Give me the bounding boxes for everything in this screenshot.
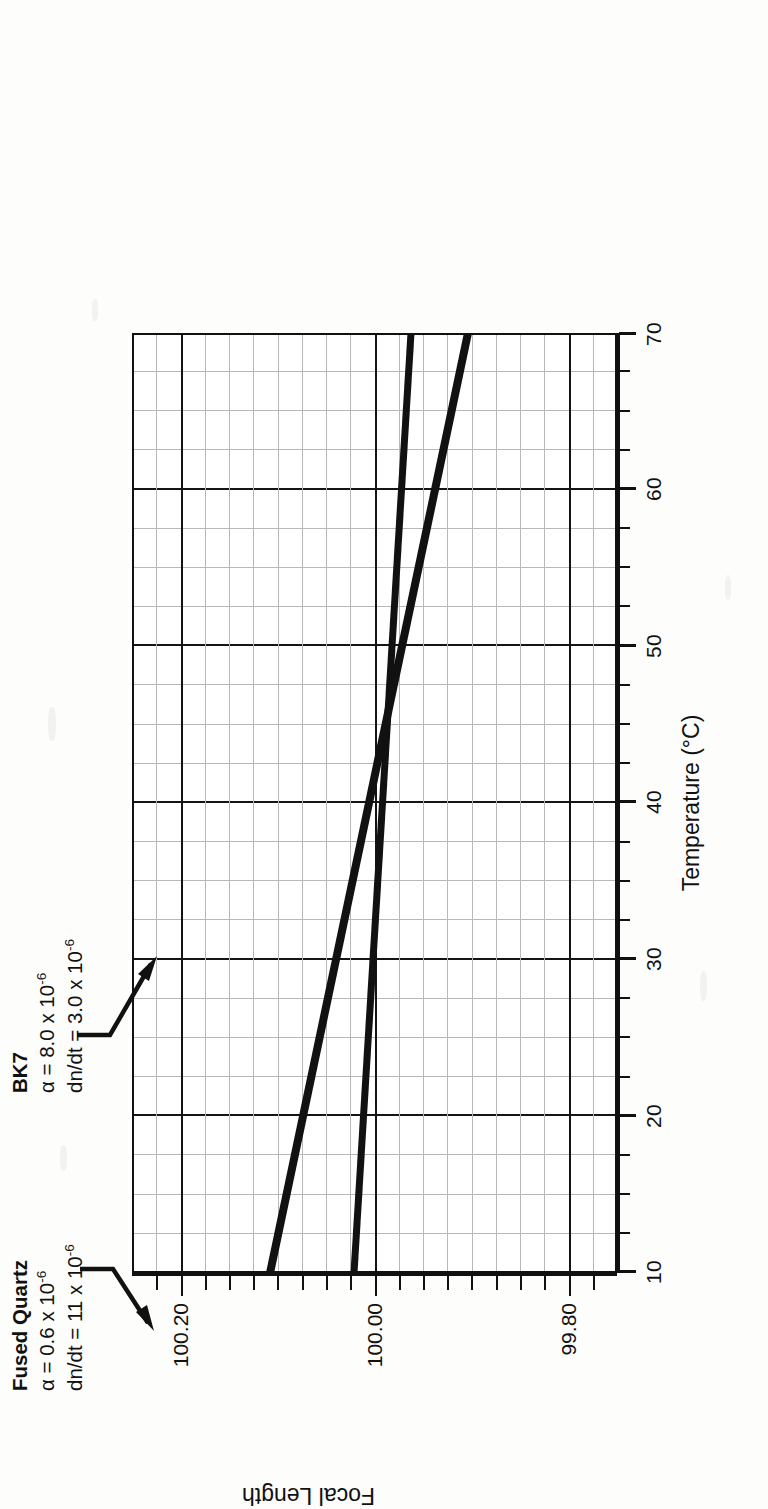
x-tick-minor xyxy=(619,1193,630,1195)
annotation-fused-quartz-alpha: α = 0.6 x 10-6 xyxy=(33,1244,60,1391)
leader-line-fused-quartz xyxy=(80,1269,148,1323)
x-axis-label-10: 10 xyxy=(642,1260,666,1284)
y-tick-minor xyxy=(471,1276,473,1290)
x-tick-minor xyxy=(619,449,630,451)
x-tick-20 xyxy=(619,1114,636,1117)
scan-speckle xyxy=(725,575,731,601)
y-tick-minor xyxy=(423,1276,425,1290)
x-tick-minor xyxy=(619,841,630,843)
plot-area xyxy=(132,333,617,1273)
y-tick-minor xyxy=(326,1276,328,1290)
y-tick-minor xyxy=(399,1276,401,1290)
x-tick-minor xyxy=(619,684,630,686)
y-axis-label-99.80: 99.80 xyxy=(557,1303,581,1356)
scan-speckle xyxy=(48,707,56,741)
y-axis-label-100.20: 100.20 xyxy=(169,1303,193,1367)
annotation-bk7-alpha: α = 8.0 x 10-6 xyxy=(33,939,60,1093)
annotation-bk7-name: BK7 xyxy=(6,939,33,1093)
x-tick-minor xyxy=(619,880,630,882)
x-axis-line xyxy=(617,333,620,1273)
y-axis-label-100.00: 100.00 xyxy=(363,1303,387,1367)
x-axis-label-40: 40 xyxy=(642,790,666,814)
annotation-fused-quartz-name: Fused Quartz xyxy=(6,1244,33,1391)
x-tick-minor xyxy=(619,1232,630,1234)
y-tick-minor xyxy=(496,1276,498,1290)
annotation-bk7-dndt: dn/dt = 3.0 x 10-6 xyxy=(61,939,88,1093)
x-tick-50 xyxy=(619,644,636,647)
x-tick-10 xyxy=(619,1270,636,1273)
x-tick-minor xyxy=(619,566,630,568)
annotation-fused-quartz-dndt: dn/dt = 11 x 10-6 xyxy=(61,1244,88,1391)
y-tick-minor xyxy=(350,1276,352,1290)
x-tick-30 xyxy=(619,957,636,960)
x-tick-60 xyxy=(619,487,636,490)
scan-speckle xyxy=(60,1145,67,1171)
x-tick-minor xyxy=(619,723,630,725)
x-tick-40 xyxy=(619,800,636,803)
series-line-fused-quartz xyxy=(270,333,468,1273)
y-tick-minor xyxy=(205,1276,207,1290)
leader-arrow-fused-quartz xyxy=(136,1305,154,1331)
x-tick-minor xyxy=(619,370,630,372)
x-tick-minor xyxy=(619,1076,630,1078)
y-tick-99.80 xyxy=(569,1276,572,1296)
x-tick-minor xyxy=(619,997,630,999)
x-axis-label-50: 50 xyxy=(642,634,666,658)
y-tick-minor xyxy=(520,1276,522,1290)
x-tick-minor xyxy=(619,919,630,921)
y-tick-minor xyxy=(544,1276,546,1290)
x-axis-label-60: 60 xyxy=(642,477,666,501)
x-axis-label-70: 70 xyxy=(642,322,666,346)
x-tick-minor xyxy=(619,605,630,607)
annotation-fused-quartz: Fused Quartz α = 0.6 x 10-6 dn/dt = 11 x… xyxy=(6,1244,88,1391)
y-tick-minor xyxy=(229,1276,231,1290)
series-line-bk7 xyxy=(354,333,411,1273)
scan-speckle xyxy=(92,299,98,321)
y-tick-minor xyxy=(277,1276,279,1290)
y-tick-100.20 xyxy=(181,1276,184,1296)
x-axis-label-20: 20 xyxy=(642,1104,666,1128)
y-tick-minor xyxy=(156,1276,158,1290)
x-tick-minor xyxy=(619,410,630,412)
x-axis-title: Temperature (°C) xyxy=(678,333,705,1273)
x-tick-minor xyxy=(619,527,630,529)
series-layer xyxy=(132,333,617,1273)
y-tick-minor xyxy=(447,1276,449,1290)
x-tick-minor xyxy=(619,1154,630,1156)
annotation-bk7: BK7 α = 8.0 x 10-6 dn/dt = 3.0 x 10-6 xyxy=(6,939,88,1093)
x-axis-label-30: 30 xyxy=(642,947,666,971)
y-tick-minor xyxy=(302,1276,304,1290)
x-tick-minor xyxy=(619,762,630,764)
y-axis-title: Focal Length xyxy=(242,1482,375,1509)
y-tick-100.00 xyxy=(375,1276,378,1296)
y-tick-minor xyxy=(253,1276,255,1290)
x-tick-minor xyxy=(619,1036,630,1038)
y-tick-minor xyxy=(593,1276,595,1290)
x-tick-70 xyxy=(619,332,636,335)
